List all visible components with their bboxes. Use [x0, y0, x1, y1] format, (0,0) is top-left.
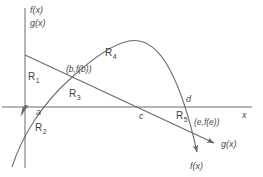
point-label-e-coordinate: (e,f(e)) [194, 118, 220, 127]
region-label-r2-subscript: 2 [43, 128, 47, 135]
curve-f-of-x [12, 41, 197, 167]
region-label-r4-name: R [105, 47, 112, 58]
y-axis-label-f: f(x) [30, 6, 43, 15]
region-label-r5-subscript: 5 [184, 116, 188, 123]
region-label-r1-name: R [28, 71, 35, 82]
point-label-c: c [139, 112, 144, 121]
region-label-r5: R5 [176, 111, 187, 121]
region-label-r2: R2 [35, 123, 46, 133]
point-label-a: a [36, 108, 41, 117]
region-label-r5-name: R [176, 110, 183, 121]
point-label-b-coordinate: (b,f(b)) [66, 65, 92, 74]
region-label-r4: R4 [105, 48, 116, 58]
region-label-r1-subscript: 1 [36, 77, 40, 84]
region-label-r3-name: R [69, 88, 76, 99]
region-label-r1: R1 [28, 72, 39, 82]
region-label-r2-name: R [35, 122, 42, 133]
region-label-r4-subscript: 4 [113, 53, 117, 60]
y-axis-label-g: g(x) [30, 19, 46, 28]
x-axis-label: x [242, 111, 247, 120]
point-label-d: d [186, 95, 191, 104]
curve-label-f-of-x: f(x) [190, 162, 203, 171]
figure-root: f(x) g(x) x f(x) g(x) a c d (b,f(b)) (e,… [0, 0, 263, 177]
region-label-r3: R3 [69, 89, 80, 99]
curve-label-g-of-x: g(x) [221, 140, 237, 149]
region-label-r3-subscript: 3 [77, 94, 81, 101]
